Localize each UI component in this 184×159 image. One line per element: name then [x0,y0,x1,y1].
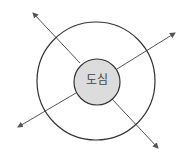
arrow-upper-right [117,33,175,69]
city-center-label: 도심 [73,70,121,87]
arrow-lower-left [18,93,76,127]
arrow-lower-right [112,99,158,148]
arrow-upper-left [33,13,80,63]
